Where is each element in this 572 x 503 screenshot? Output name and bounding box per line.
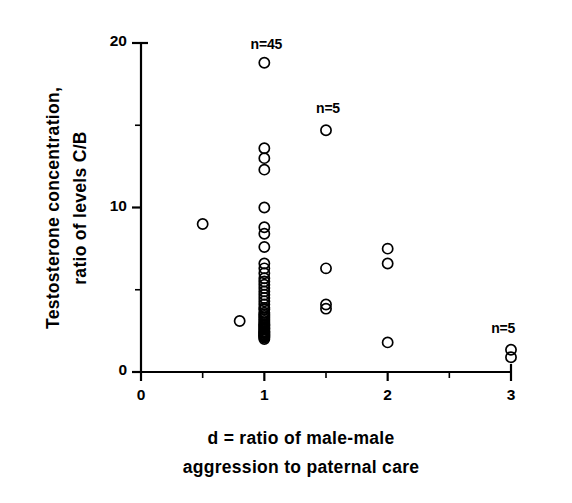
x-axis-tick-label: 1 (240, 386, 288, 404)
x-axis-title-line-1: d = ratio of male-male (96, 424, 506, 453)
sample-size-annotation: n=5 (477, 320, 529, 336)
data-point-marker (259, 229, 269, 239)
data-point-marker (259, 143, 269, 153)
x-axis-title: d = ratio of male-male aggression to pat… (96, 424, 506, 482)
data-point-marker (259, 202, 269, 212)
x-axis-tick-label: 3 (487, 386, 535, 404)
data-point-marker (198, 219, 208, 229)
data-point-marker (259, 153, 269, 163)
scatter-plot-figure: Testosterone concentration, ratio of lev… (0, 0, 572, 503)
x-axis-tick-label: 0 (117, 386, 165, 404)
data-point-marker (321, 263, 331, 273)
x-axis-tick-label: 2 (364, 386, 412, 404)
data-point-marker (321, 125, 331, 135)
data-point-marker (506, 352, 516, 362)
y-axis-tick-label: 0 (79, 361, 127, 379)
data-point-marker (259, 58, 269, 68)
data-point-marker (259, 242, 269, 252)
sample-size-annotation: n=5 (302, 100, 354, 116)
data-point-marker (383, 337, 393, 347)
data-point-marker (235, 316, 245, 326)
y-axis-tick-label: 20 (79, 32, 127, 50)
data-point-marker (383, 258, 393, 268)
sample-size-annotation: n=45 (240, 36, 292, 52)
data-point-marker (259, 165, 269, 175)
y-axis-title-line-1: Testosterone concentration, (40, 43, 67, 373)
y-axis-tick-label: 10 (79, 197, 127, 215)
data-point-marker (383, 244, 393, 254)
x-axis-title-line-2: aggression to paternal care (96, 453, 506, 482)
